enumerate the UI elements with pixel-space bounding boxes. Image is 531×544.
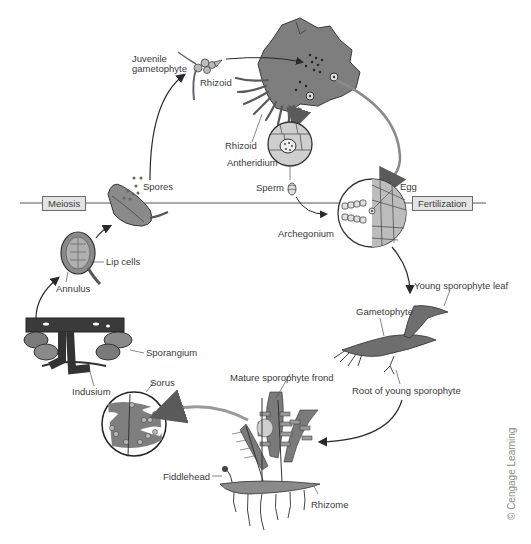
label-indusium: Indusium — [72, 387, 111, 397]
label-young-sporophyte-leaf: Young sporophyte leaf — [414, 281, 508, 291]
sperm-illustration — [288, 183, 296, 195]
label-antheridium: Antheridium — [227, 158, 278, 168]
label-rhizoid-gametophyte: Rhizoid — [225, 141, 257, 151]
label-gametophyte: Gametophyte — [356, 307, 413, 317]
sorus-leaf-inset — [102, 392, 166, 456]
label-sorus: Sorus — [150, 378, 175, 388]
label-juvenile-gametophyte: Juvenile gametophyte — [132, 54, 187, 74]
label-egg: Egg — [400, 182, 417, 192]
fertilization-box: Fertilization — [412, 196, 473, 211]
label-annulus: Annulus — [56, 284, 90, 294]
label-archegonium: Archegonium — [278, 229, 334, 239]
label-rhizome: Rhizome — [311, 500, 349, 510]
fern-life-cycle-diagram — [0, 0, 531, 544]
meiosis-box: Meiosis — [42, 196, 86, 211]
label-fiddlehead: Fiddlehead — [163, 472, 210, 482]
sorus-cross-section-illustration — [24, 318, 132, 370]
copyright-credit: © Cengage Learning — [506, 428, 517, 520]
label-lip-cells: Lip cells — [106, 257, 140, 267]
label-sporangium: Sporangium — [146, 348, 197, 358]
label-rhizoid-juvenile: Rhizoid — [200, 78, 232, 88]
label-mature-sporophyte-frond: Mature sporophyte frond — [230, 373, 334, 383]
archegonium-inset — [338, 179, 406, 247]
label-root-of-young-sporophyte: Root of young sporophyte — [352, 386, 461, 396]
label-spores: Spores — [143, 182, 173, 192]
label-sperm: Sperm — [256, 183, 284, 193]
